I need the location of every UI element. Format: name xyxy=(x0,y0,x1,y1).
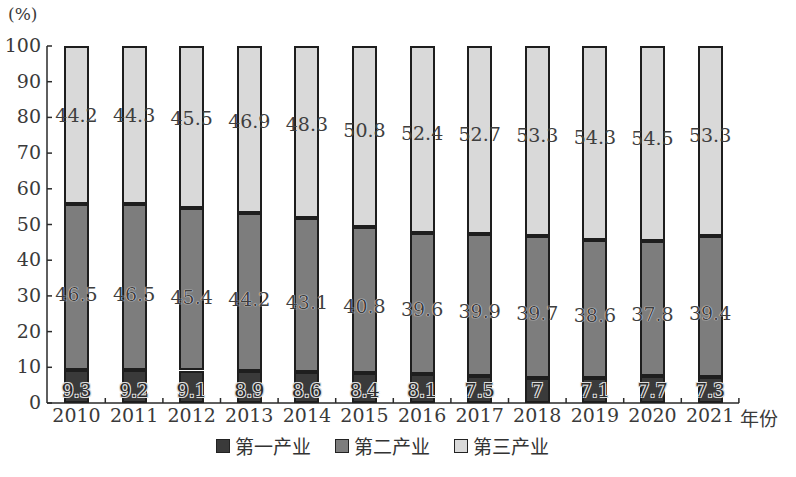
x-tick-label: 2018 xyxy=(507,404,567,426)
x-tick-label: 2017 xyxy=(450,404,510,426)
legend-swatch-primary xyxy=(216,439,230,453)
legend-item-secondary: 第二产业 xyxy=(335,432,430,459)
value-label-secondary: 39.4 xyxy=(675,302,745,324)
x-tick-label: 2016 xyxy=(392,404,452,426)
x-tick-label: 2010 xyxy=(47,404,107,426)
bar-2014 xyxy=(294,46,319,403)
x-tick-label: 2015 xyxy=(335,404,395,426)
x-tick-label: 2014 xyxy=(277,404,337,426)
bar-2011 xyxy=(122,46,147,403)
legend-swatch-tertiary xyxy=(454,439,468,453)
bar-2010 xyxy=(64,46,89,403)
bar-2017 xyxy=(467,46,492,403)
legend-label-primary: 第一产业 xyxy=(235,432,311,459)
legend-label-tertiary: 第三产业 xyxy=(473,432,549,459)
value-label-tertiary: 53.3 xyxy=(675,124,745,146)
bar-2021 xyxy=(698,46,723,403)
x-tick-label: 2012 xyxy=(162,404,222,426)
x-tick-label: 2019 xyxy=(565,404,625,426)
bar-2020 xyxy=(640,46,665,403)
x-tick-label: 2013 xyxy=(219,404,279,426)
stacked-bar-chart: (%) 0102030405060708090100 44.246.59.344… xyxy=(0,0,796,477)
value-label-primary: 7.3 xyxy=(675,379,745,401)
x-tick-label: 2011 xyxy=(104,404,164,426)
bar-2018 xyxy=(525,46,550,403)
legend-item-tertiary: 第三产业 xyxy=(454,432,549,459)
legend-swatch-secondary xyxy=(335,439,349,453)
x-axis-unit-label: 年份 xyxy=(740,404,778,431)
legend-label-secondary: 第二产业 xyxy=(354,432,430,459)
legend: 第一产业 第二产业 第三产业 xyxy=(216,432,573,459)
legend-item-primary: 第一产业 xyxy=(216,432,311,459)
bar-2015 xyxy=(352,46,377,403)
bar-2012 xyxy=(179,46,204,403)
bar-2016 xyxy=(410,46,435,403)
bar-2019 xyxy=(582,46,607,403)
x-tick-label: 2020 xyxy=(623,404,683,426)
x-tick-label: 2021 xyxy=(680,404,740,426)
bar-2013 xyxy=(237,46,262,403)
